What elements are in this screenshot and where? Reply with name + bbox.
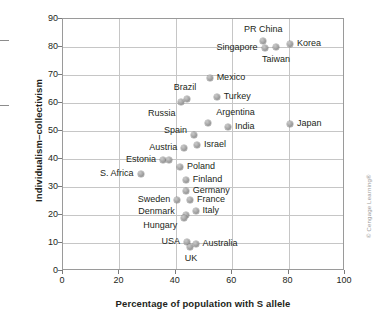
gridline-horizontal xyxy=(63,75,343,76)
point-label: Brazil xyxy=(174,83,197,93)
y-axis-tick-label: 40 xyxy=(18,154,58,163)
data-point xyxy=(183,188,189,194)
point-label: Sweden xyxy=(138,195,171,205)
data-point xyxy=(184,96,190,102)
point-label: Argentina xyxy=(216,108,255,118)
data-point xyxy=(193,241,199,247)
y-axis-tick-label: 20 xyxy=(18,210,58,219)
point-label: Turkey xyxy=(224,93,251,103)
x-axis-tick-label: 60 xyxy=(211,276,251,285)
x-axis-tick xyxy=(118,270,119,274)
data-point xyxy=(193,208,199,214)
y-axis-tick-label: 70 xyxy=(18,70,58,79)
point-label: Italy xyxy=(203,206,220,216)
data-point xyxy=(191,132,197,138)
x-axis-tick-label: 40 xyxy=(155,276,195,285)
point-label: Mexico xyxy=(217,73,246,83)
point-label: Spain xyxy=(164,126,187,136)
point-label: Singapore xyxy=(217,44,258,54)
y-axis-tick-label: 10 xyxy=(18,238,58,247)
x-axis-tick-label: 80 xyxy=(268,276,308,285)
scatter-chart-figure: Individualism–collectivism Percentage of… xyxy=(0,0,388,322)
x-axis-tick xyxy=(62,270,63,274)
data-point xyxy=(287,121,293,127)
point-label: Israel xyxy=(204,140,226,150)
point-label: Denmark xyxy=(138,207,175,217)
data-point xyxy=(273,44,279,50)
y-axis-tick-label: 60 xyxy=(18,98,58,107)
data-point xyxy=(181,145,187,151)
gridline-vertical xyxy=(232,19,233,269)
y-axis-tick-label: 30 xyxy=(18,182,58,191)
crop-mark-bottom xyxy=(0,105,9,106)
point-label: Australia xyxy=(203,240,238,250)
point-label: UK xyxy=(185,254,198,264)
y-axis-tick-label: 0 xyxy=(18,266,58,275)
point-label: PR China xyxy=(244,26,283,36)
y-axis-tick-label: 90 xyxy=(18,14,58,23)
point-label: Austria xyxy=(149,143,177,153)
data-point xyxy=(214,94,220,100)
data-point xyxy=(187,244,193,250)
y-axis-tick-label: 50 xyxy=(18,126,58,135)
data-point xyxy=(225,124,231,130)
point-label: Poland xyxy=(187,163,215,173)
point-label: Taiwan xyxy=(262,55,290,65)
point-label: Japan xyxy=(297,119,322,129)
x-axis-tick xyxy=(344,270,345,274)
data-point xyxy=(207,75,213,81)
point-label: India xyxy=(235,122,255,132)
x-axis-tick xyxy=(288,270,289,274)
point-label: France xyxy=(197,195,225,205)
point-label: USA xyxy=(162,237,181,247)
gridline-horizontal xyxy=(63,159,343,160)
point-label: Russia xyxy=(148,109,176,119)
x-axis-tick-label: 100 xyxy=(324,276,364,285)
y-axis-tick-label: 80 xyxy=(18,42,58,51)
gridline-vertical xyxy=(119,19,120,269)
data-point xyxy=(177,164,183,170)
data-point xyxy=(262,45,268,51)
data-point xyxy=(194,142,200,148)
point-label: Korea xyxy=(297,39,321,49)
x-axis-title: Percentage of population with S allele xyxy=(62,298,344,309)
copyright-notice: © Cengage Learning® xyxy=(366,174,372,238)
x-axis-tick xyxy=(231,270,232,274)
point-label: Hungary xyxy=(143,221,177,231)
data-point xyxy=(166,157,172,163)
data-point xyxy=(174,197,180,203)
data-point xyxy=(181,215,187,221)
point-label: S. Africa xyxy=(100,170,134,180)
plot-area: PR ChinaSingaporeKoreaTaiwanMexicoBrazil… xyxy=(62,18,344,270)
data-point xyxy=(260,38,266,44)
data-point xyxy=(138,171,144,177)
x-axis-tick-label: 20 xyxy=(98,276,138,285)
data-point xyxy=(187,197,193,203)
gridline-horizontal xyxy=(63,131,343,132)
crop-mark-top xyxy=(0,40,9,41)
data-point xyxy=(205,120,211,126)
gridline-horizontal xyxy=(63,103,343,104)
x-axis-tick-label: 0 xyxy=(42,276,82,285)
point-label: Estonia xyxy=(126,156,156,166)
data-point xyxy=(183,177,189,183)
x-axis-tick xyxy=(175,270,176,274)
point-label: Finland xyxy=(193,175,223,185)
